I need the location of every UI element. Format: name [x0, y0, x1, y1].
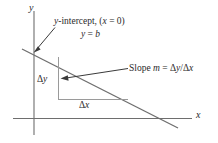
y-axis-label: y	[29, 3, 33, 13]
slope-intercept-diagram: y x y-intercept, (x = 0) y = b Slope m =…	[0, 0, 218, 143]
y-intercept-label: y-intercept, (x = 0)	[54, 17, 125, 27]
plotted-line	[22, 49, 178, 128]
delta-y-label: Δy	[37, 75, 47, 85]
delta-x-label: Δx	[79, 101, 89, 111]
x-axis-label: x	[196, 110, 200, 120]
slope-leader-arrow	[61, 69, 129, 81]
y-equals-b-label: y = b	[81, 30, 100, 40]
slope-formula-label: Slope m = Δy/Δx	[129, 64, 193, 74]
y-intercept-leader-arrow	[34, 28, 56, 53]
